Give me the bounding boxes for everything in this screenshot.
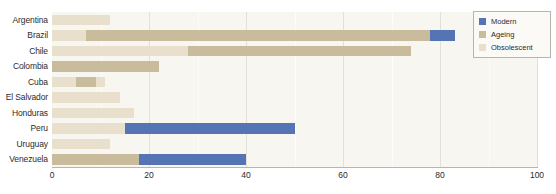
- bar-segment-obsolescent[interactable]: [52, 30, 86, 41]
- bar-row[interactable]: [52, 43, 537, 59]
- bar-track: [52, 154, 537, 165]
- bar-row[interactable]: [52, 12, 537, 28]
- bar-row[interactable]: [52, 152, 537, 168]
- legend-swatch-icon: [479, 44, 486, 51]
- bar-track: [52, 108, 537, 119]
- x-axis-tick-label: 60: [338, 170, 347, 181]
- legend-label: Ageing: [491, 30, 514, 39]
- bar-row[interactable]: [52, 90, 537, 106]
- bar-track: [52, 139, 537, 150]
- legend-label: Modern: [491, 17, 516, 26]
- y-axis-label: Colombia: [0, 61, 48, 71]
- legend-swatch-icon: [479, 18, 486, 25]
- bar-row[interactable]: [52, 105, 537, 121]
- bar-segment-obsolescent[interactable]: [52, 123, 125, 134]
- bar-track: [52, 61, 537, 72]
- bar-segment-obsolescent[interactable]: [52, 108, 134, 119]
- bar-segment-obsolescent[interactable]: [52, 46, 188, 57]
- bar-segment-modern[interactable]: [430, 30, 454, 41]
- bar-track: [52, 46, 537, 57]
- bar-segment-ageing[interactable]: [52, 61, 159, 72]
- bar-track: [52, 15, 537, 26]
- y-axis-label: Peru: [0, 123, 48, 133]
- y-axis-labels: ArgentinaBrazilChileColombiaCubaEl Salva…: [0, 12, 48, 167]
- bar-segment-obsolescent[interactable]: [96, 77, 106, 88]
- bar-track: [52, 92, 537, 103]
- x-axis-tick-label: 20: [144, 170, 153, 181]
- x-axis-tick-label: 80: [435, 170, 444, 181]
- legend-item[interactable]: Ageing: [479, 29, 546, 40]
- y-axis-label: Honduras: [0, 108, 48, 118]
- plot-area: [52, 12, 537, 167]
- bar-segment-obsolescent[interactable]: [52, 15, 110, 26]
- x-axis-tick-label: 100: [530, 170, 544, 181]
- bar-rows: [52, 12, 537, 167]
- bar-row[interactable]: [52, 28, 537, 44]
- x-axis-tick-label: 0: [50, 170, 55, 181]
- y-axis-label: Argentina: [0, 15, 48, 25]
- bar-segment-obsolescent[interactable]: [52, 92, 120, 103]
- y-axis-label: Chile: [0, 46, 48, 56]
- bar-segment-obsolescent[interactable]: [52, 77, 76, 88]
- bar-row[interactable]: [52, 59, 537, 75]
- bar-segment-modern[interactable]: [139, 154, 246, 165]
- legend-swatch-icon: [479, 31, 486, 38]
- y-axis-label: El Salvador: [0, 92, 48, 102]
- bar-segment-ageing[interactable]: [52, 154, 139, 165]
- stacked-bar-chart: ArgentinaBrazilChileColombiaCubaEl Salva…: [0, 0, 556, 194]
- bar-row[interactable]: [52, 74, 537, 90]
- bar-track: [52, 123, 537, 134]
- x-axis-labels: 020406080100: [0, 170, 556, 186]
- x-axis-line: [52, 167, 538, 168]
- bar-segment-ageing[interactable]: [76, 77, 95, 88]
- bar-segment-ageing[interactable]: [86, 30, 430, 41]
- bar-track: [52, 77, 537, 88]
- bar-segment-ageing[interactable]: [188, 46, 411, 57]
- legend-label: Obsolescent: [491, 43, 533, 52]
- y-axis-label: Venezuela: [0, 154, 48, 164]
- y-axis-label: Brazil: [0, 30, 48, 40]
- chart-legend: ModernAgeingObsolescent: [473, 11, 551, 58]
- y-axis-label: Uruguay: [0, 139, 48, 149]
- bar-row[interactable]: [52, 121, 537, 137]
- legend-item[interactable]: Obsolescent: [479, 42, 546, 53]
- x-axis-tick-label: 40: [241, 170, 250, 181]
- y-axis-label: Cuba: [0, 77, 48, 87]
- legend-item[interactable]: Modern: [479, 16, 546, 27]
- bar-row[interactable]: [52, 136, 537, 152]
- bar-segment-modern[interactable]: [125, 123, 295, 134]
- bar-track: [52, 30, 537, 41]
- bar-segment-obsolescent[interactable]: [52, 139, 110, 150]
